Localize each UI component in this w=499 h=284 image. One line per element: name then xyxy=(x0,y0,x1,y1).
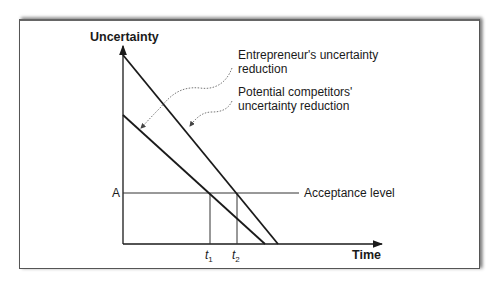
y-axis-label: Uncertainty xyxy=(90,30,159,44)
entrepreneur-annotation-line2: reduction xyxy=(238,62,287,76)
entrepreneur-annotation-line1: Entrepreneur's uncertainty xyxy=(238,48,378,62)
x-axis-label: Time xyxy=(352,248,381,262)
t1-label: t1 xyxy=(205,248,213,267)
competitors-pointer xyxy=(190,101,232,126)
competitors-line xyxy=(123,115,265,244)
acceptance-tick-label: A xyxy=(112,186,120,200)
acceptance-level-label: Acceptance level xyxy=(304,186,395,200)
competitors-annotation-line1: Potential competitors' xyxy=(238,85,352,99)
entrepreneur-pointer xyxy=(141,68,232,128)
competitors-annotation-line2: uncertainty reduction xyxy=(238,99,349,113)
diagram-canvas xyxy=(0,0,499,284)
entrepreneur-line xyxy=(123,55,278,244)
t2-label: t2 xyxy=(232,248,240,267)
